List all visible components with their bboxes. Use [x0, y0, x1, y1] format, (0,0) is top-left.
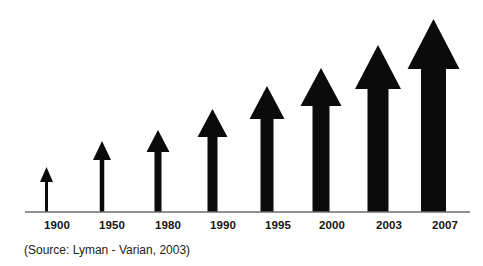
x-axis-tick-label: 2003: [376, 219, 402, 231]
chart-container: 19001950198019901995200020032007 (Source…: [0, 0, 483, 266]
chart-background: [0, 0, 483, 266]
source-annotation: (Source: Lyman - Varian, 2003): [24, 243, 190, 257]
growth-arrow-chart: 19001950198019901995200020032007 (Source…: [0, 0, 483, 266]
x-axis-tick-label: 2007: [432, 219, 458, 231]
x-axis-tick-label: 1900: [44, 219, 70, 231]
x-axis-tick-label: 1990: [210, 219, 236, 231]
x-axis-tick-label: 1950: [99, 219, 125, 231]
x-axis-tick-label: 1980: [155, 219, 181, 231]
x-axis-tick-label: 2000: [319, 219, 345, 231]
x-axis-tick-label: 1995: [265, 219, 291, 231]
